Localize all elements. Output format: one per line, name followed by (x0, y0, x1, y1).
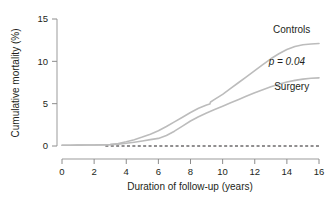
x-tick-label: 10 (217, 166, 228, 177)
series-label-surgery: Surgery (274, 81, 309, 92)
x-tick-label: 14 (282, 166, 293, 177)
y-axis-title: Cumulative mortality (%) (10, 29, 21, 138)
chart-annotations: Controlsp = 0.04Surgery (268, 24, 311, 93)
cumulative-mortality-chart: 051015 0246810121416 Controlsp = 0.04Sur… (0, 0, 334, 203)
x-tick-label: 8 (188, 166, 193, 177)
pvalue-annotation: p = 0.04 (268, 56, 306, 67)
y-tick-label: 10 (37, 56, 48, 67)
y-tick-label: 0 (43, 140, 48, 151)
x-tick-label: 2 (91, 166, 96, 177)
x-tick-label: 12 (249, 166, 260, 177)
figure-container: 051015 0246810121416 Controlsp = 0.04Sur… (0, 0, 334, 203)
x-axis-title: Duration of follow-up (years) (127, 181, 253, 192)
y-tick-label: 5 (43, 98, 48, 109)
x-tick-label: 6 (156, 166, 161, 177)
x-tick-label: 0 (59, 166, 64, 177)
x-tick-label: 16 (314, 166, 325, 177)
x-tick-label: 4 (124, 166, 129, 177)
y-tick-label: 15 (37, 13, 48, 24)
series-label-controls: Controls (273, 24, 310, 35)
